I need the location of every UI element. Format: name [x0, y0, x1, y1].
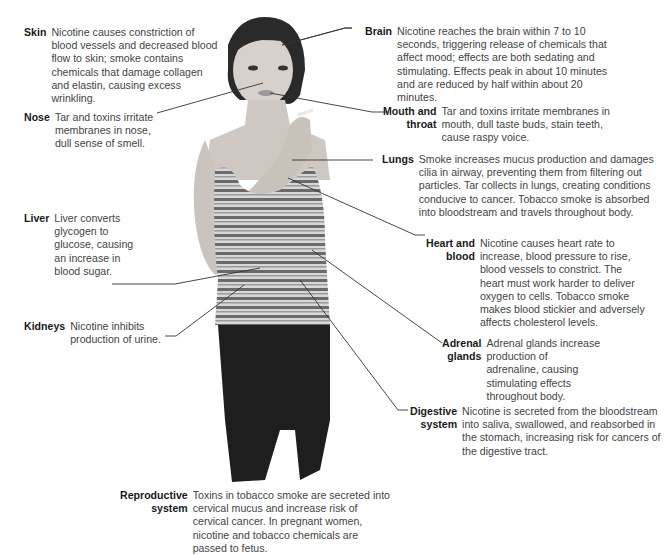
callout-term: Brain [365, 25, 397, 104]
leader-line-kidneys [165, 285, 244, 336]
callout-term: Nose [24, 111, 55, 151]
callout-term: Lungs [382, 153, 419, 219]
leader-line-brain [282, 28, 352, 45]
callout-term: Heart and blood [426, 237, 480, 329]
callout-text: Nicotine causes heart rate to increase, … [480, 237, 645, 329]
callout-term: Liver [24, 212, 54, 278]
callout-brain: Brain Nicotine reaches the brain within … [365, 25, 625, 104]
callout-term: Mouth and throat [383, 105, 442, 145]
callout-heart-blood: Heart and blood Nicotine causes heart ra… [426, 237, 645, 329]
callout-digestive-system: Digestive system Nicotine is secreted fr… [410, 405, 662, 458]
callout-term: Digestive system [410, 405, 462, 458]
callout-text: Toxins in tobacco smoke are secreted int… [193, 489, 393, 555]
callout-term: Adrenal glands [442, 337, 486, 403]
callout-adrenal-glands: Adrenal glands Adrenal glands increase p… [442, 337, 601, 403]
callout-nose: Nose Tar and toxins irritate membranes i… [24, 111, 155, 151]
callout-text: Nicotine reaches the brain within 7 to 1… [397, 25, 625, 104]
callout-text: Nicotine is secreted from the bloodstrea… [462, 405, 662, 458]
callout-text: Nicotine causes constriction of blood ve… [51, 26, 221, 105]
callout-liver: Liver Liver converts glycogen to glucose… [24, 212, 134, 278]
callout-text: Smoke increases mucus production and dam… [419, 153, 659, 219]
callout-text: Adrenal glands increase production of ad… [486, 337, 601, 403]
leader-line-adrenal [312, 250, 442, 343]
callout-term: Reproductive system [120, 489, 193, 555]
callout-lungs: Lungs Smoke increases mucus production a… [382, 153, 659, 219]
callout-kidneys: Kidneys Nicotine inhibits production of … [24, 320, 175, 346]
callout-term: Kidneys [24, 320, 70, 346]
callout-text: Tar and toxins irritate membranes in nos… [55, 111, 155, 151]
leader-line-digestive [300, 280, 408, 410]
callout-text: Tar and toxins irritate membranes in mou… [442, 105, 612, 145]
callout-text: Nicotine inhibits production of urine. [70, 320, 175, 346]
callout-reproductive-system: Reproductive system Toxins in tobacco sm… [120, 489, 393, 555]
callout-skin: Skin Nicotine causes constriction of blo… [24, 26, 221, 105]
callout-text: Liver converts glycogen to glucose, caus… [54, 212, 134, 278]
callout-term: Skin [24, 26, 51, 105]
callout-mouth-throat: Mouth and throat Tar and toxins irritate… [383, 105, 612, 145]
